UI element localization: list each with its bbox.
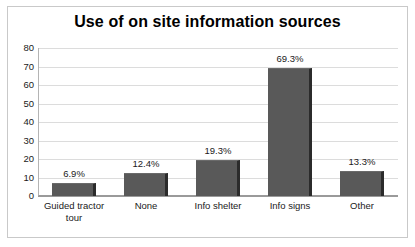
x-category-label: Info shelter [182, 200, 254, 212]
bar[interactable] [124, 173, 168, 196]
x-category-label-line: Other [326, 200, 398, 212]
bar-value-label: 13.3% [328, 157, 396, 167]
y-tick-label-0: 0 [8, 191, 34, 201]
bar-value-label: 12.4% [112, 159, 180, 169]
bar-slot: 69.3% [268, 48, 312, 196]
x-category-label-line: Guided tractor [38, 200, 110, 212]
bar-value-label: 6.9% [40, 169, 108, 179]
gridline-0 [39, 196, 398, 197]
bar-slot: 12.4% [124, 48, 168, 196]
y-tick-label-40: 40 [8, 117, 34, 127]
x-category-label-line: Info shelter [182, 200, 254, 212]
x-category-label: Guided tractortour [38, 200, 110, 224]
bar-value-label: 19.3% [184, 146, 252, 156]
bar[interactable] [340, 171, 384, 196]
x-category-label-line: None [110, 200, 182, 212]
x-category-label: Other [326, 200, 398, 212]
bar[interactable] [268, 68, 312, 196]
bar-slot: 19.3% [196, 48, 240, 196]
chart-container: Use of on site information sources 80706… [0, 0, 415, 247]
x-axis-category-labels: Guided tractortourNoneInfo shelterInfo s… [38, 200, 398, 240]
y-tick-label-30: 30 [8, 136, 34, 146]
bar-value-label: 69.3% [256, 54, 324, 64]
x-category-label-line: tour [38, 212, 110, 224]
y-tick-label-10: 10 [8, 173, 34, 183]
x-category-label: Info signs [254, 200, 326, 212]
bars-layer: 6.9%12.4%19.3%69.3%13.3% [38, 48, 398, 196]
y-tick-label-20: 20 [8, 154, 34, 164]
y-tick-label-50: 50 [8, 99, 34, 109]
y-axis: 80706050403020100 [4, 0, 34, 247]
chart-title: Use of on site information sources [8, 13, 407, 31]
bar-slot: 6.9% [52, 48, 96, 196]
bar[interactable] [52, 183, 96, 196]
x-category-label: None [110, 200, 182, 212]
bar-slot: 13.3% [340, 48, 384, 196]
bar[interactable] [196, 160, 240, 196]
y-tick-label-80: 80 [8, 43, 34, 53]
y-tick-label-60: 60 [8, 80, 34, 90]
x-category-label-line: Info signs [254, 200, 326, 212]
y-tick-label-70: 70 [8, 62, 34, 72]
